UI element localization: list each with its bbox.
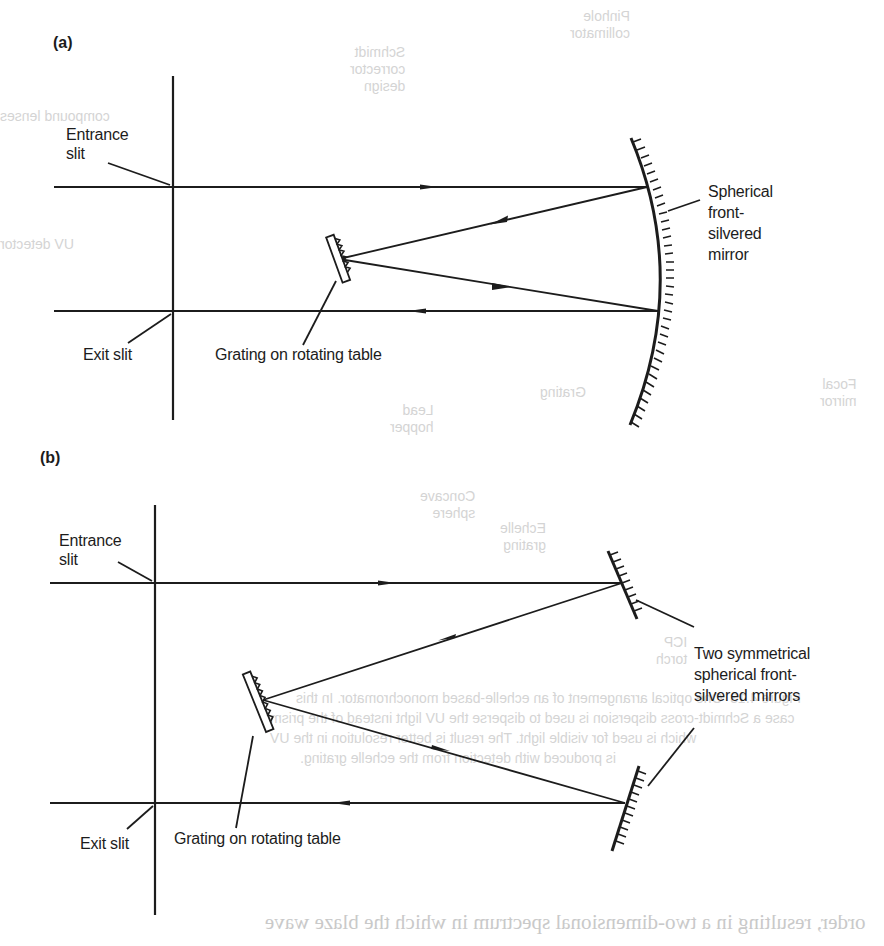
entrance-slit-leader — [118, 562, 152, 581]
mirror-leader — [668, 200, 700, 211]
panel-tag-b: (b) — [40, 449, 60, 467]
beam-mirror-to-grating — [263, 583, 622, 700]
panel-b — [50, 505, 694, 915]
mirrors-leader-upper — [636, 600, 694, 627]
grating-leader — [236, 736, 253, 828]
mirror-hatching — [631, 139, 674, 427]
exit-slit-leader — [127, 806, 153, 829]
beam-arrow — [332, 801, 350, 806]
grating-label: Grating on rotating table — [215, 345, 382, 364]
mirror-hatching — [610, 552, 642, 611]
monochromator-diagrams — [0, 0, 884, 946]
spherical-mirror-upper — [608, 551, 637, 619]
panel-a — [54, 76, 700, 427]
grating-icon — [243, 670, 277, 732]
beam-arrow — [408, 309, 426, 314]
grating-label: Grating on rotating table — [174, 829, 341, 848]
spherical-mirror-a — [630, 138, 660, 425]
beam-arrow — [492, 283, 511, 290]
exit-slit-leader — [128, 314, 171, 343]
entrance-slit-label: Entrance slit — [66, 125, 128, 163]
panel-tag-a: (a) — [53, 34, 73, 52]
beam-arrow — [490, 216, 508, 225]
beam-grating-to-mirror — [263, 700, 625, 803]
mirror-hatching — [616, 771, 646, 844]
beam-arrow — [420, 185, 438, 190]
grating-icon — [326, 233, 354, 282]
entrance-slit-leader — [108, 163, 170, 185]
exit-slit-label: Exit slit — [80, 834, 129, 853]
mirrors-label: Two symmetrical spherical front- silvere… — [694, 643, 810, 706]
entrance-slit-label: Entrance slit — [59, 531, 121, 569]
beam-arrow — [378, 581, 396, 586]
mirror-label: Spherical front- silvered mirror — [708, 181, 773, 265]
mirrors-leader-lower — [648, 728, 694, 786]
exit-slit-label: Exit slit — [83, 345, 132, 364]
grating-leader — [303, 281, 336, 345]
